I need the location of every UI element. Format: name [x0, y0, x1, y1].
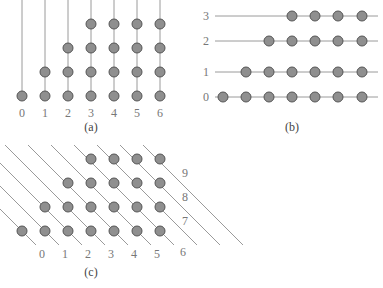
diagonal-label: 2	[85, 247, 91, 261]
node-dot	[86, 91, 96, 101]
node-dot	[86, 154, 96, 164]
panel-b: 0123	[203, 9, 378, 104]
caption-a: (a)	[84, 120, 97, 134]
node-dot	[86, 178, 96, 188]
node-dot	[109, 43, 119, 53]
panel-a: 0123456	[17, 0, 165, 120]
node-dot	[63, 178, 73, 188]
panel-c: 0123456789	[0, 145, 243, 261]
node-dot	[86, 19, 96, 29]
diagonal-label: 6	[180, 245, 186, 259]
node-dot	[357, 11, 367, 21]
node-dot	[264, 67, 274, 77]
node-dot	[264, 36, 274, 46]
node-dot	[63, 226, 73, 236]
column-label: 4	[111, 106, 117, 120]
node-dot	[310, 36, 320, 46]
node-dot	[132, 19, 142, 29]
node-dot	[287, 11, 297, 21]
node-dot	[155, 19, 165, 29]
node-dot	[241, 92, 251, 102]
node-dot	[109, 202, 119, 212]
column-label: 2	[65, 106, 71, 120]
node-dot	[357, 36, 367, 46]
caption-c: (c)	[84, 265, 97, 279]
node-dot	[132, 67, 142, 77]
node-dot	[40, 67, 50, 77]
node-dot	[109, 226, 119, 236]
node-dot	[287, 36, 297, 46]
node-dot	[287, 67, 297, 77]
node-dot	[86, 226, 96, 236]
node-dot	[218, 92, 228, 102]
node-dot	[40, 226, 50, 236]
node-dot	[310, 92, 320, 102]
diagonal-label: 9	[182, 166, 188, 180]
node-dot	[132, 91, 142, 101]
node-dot	[333, 67, 343, 77]
diagram-canvas: 0123456 0123 0123456789 (a) (b) (c)	[0, 0, 383, 288]
diagonal-label: 5	[154, 247, 160, 261]
node-dot	[109, 154, 119, 164]
row-label: 3	[203, 9, 209, 23]
node-dot	[287, 92, 297, 102]
node-dot	[109, 19, 119, 29]
node-dot	[17, 226, 27, 236]
node-dot	[132, 178, 142, 188]
node-dot	[310, 67, 320, 77]
node-dot	[86, 43, 96, 53]
node-dot	[155, 91, 165, 101]
diagonal-label: 8	[182, 190, 188, 204]
node-dot	[333, 11, 343, 21]
node-dot	[109, 67, 119, 77]
node-dot	[40, 202, 50, 212]
node-dot	[40, 91, 50, 101]
node-dot	[310, 11, 320, 21]
node-dot	[17, 91, 27, 101]
node-dot	[357, 67, 367, 77]
node-dot	[264, 92, 274, 102]
node-dot	[63, 202, 73, 212]
node-dot	[63, 43, 73, 53]
node-dot	[132, 154, 142, 164]
node-dot	[155, 43, 165, 53]
node-dot	[241, 67, 251, 77]
node-dot	[109, 91, 119, 101]
node-dot	[132, 226, 142, 236]
diagonal-label: 3	[108, 247, 114, 261]
node-dot	[333, 36, 343, 46]
node-dot	[155, 178, 165, 188]
column-label: 3	[88, 106, 94, 120]
node-dot	[132, 43, 142, 53]
caption-b: (b)	[285, 120, 299, 134]
diagonal-label: 4	[131, 247, 137, 261]
node-dot	[109, 178, 119, 188]
node-dot	[155, 226, 165, 236]
node-dot	[86, 67, 96, 77]
node-dot	[155, 67, 165, 77]
node-dot	[155, 154, 165, 164]
row-label: 1	[203, 65, 209, 79]
node-dot	[333, 92, 343, 102]
node-dot	[63, 91, 73, 101]
node-dot	[86, 202, 96, 212]
column-label: 6	[157, 106, 163, 120]
row-label: 2	[203, 34, 209, 48]
column-label: 1	[42, 106, 48, 120]
row-label: 0	[203, 90, 209, 104]
node-dot	[63, 67, 73, 77]
node-dot	[357, 92, 367, 102]
diagonal-label: 1	[62, 247, 68, 261]
column-label: 5	[134, 106, 140, 120]
diagonal-label: 0	[39, 247, 45, 261]
column-label: 0	[19, 106, 25, 120]
node-dot	[155, 202, 165, 212]
node-dot	[132, 202, 142, 212]
diagonal-label: 7	[182, 214, 188, 228]
